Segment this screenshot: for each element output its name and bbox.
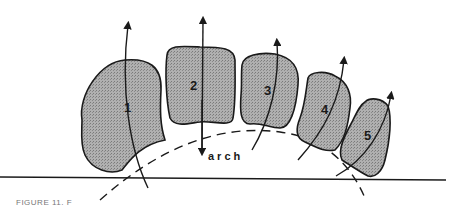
arch-diagram: 1 2 3 4 5 arch: [0, 0, 459, 207]
stone-1: [82, 60, 165, 172]
stone-label-1: 1: [124, 100, 131, 115]
ground-line: [0, 177, 446, 180]
stone-label-5: 5: [364, 128, 371, 143]
figure-caption: FIGURE 11. F: [16, 198, 72, 207]
stone-label-3: 3: [264, 83, 271, 98]
stone-label-4: 4: [321, 102, 329, 117]
stone-2: [166, 46, 235, 124]
stone-label-2: 2: [190, 78, 197, 93]
arch-label: arch: [208, 150, 243, 162]
